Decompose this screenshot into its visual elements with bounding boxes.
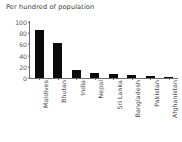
y-tick-label-4: 80 (19, 30, 27, 37)
x-tick-label-bhutan: Bhutan (60, 80, 67, 103)
x-tick-mark-0 (39, 78, 40, 80)
y-tick-label-2: 40 (19, 52, 27, 59)
x-tick-mark-2 (76, 78, 77, 80)
bar-bhutan[interactable] (53, 43, 62, 78)
plot-area: 020406080100 (30, 22, 178, 78)
x-tick-label-bangladesh: Bangladesh (134, 80, 141, 117)
x-tick-label-sri-lanka: Sri Lanka (116, 80, 123, 109)
x-axis-line (29, 78, 178, 79)
y-tick-label-0: 0 (23, 75, 27, 82)
bar-india[interactable] (72, 70, 81, 78)
x-tick-label-afghanistan: Afghanistan (171, 80, 178, 118)
y-tick-label-1: 20 (19, 63, 27, 70)
chart-title: Per hundred of population (6, 3, 94, 11)
bar-maldives[interactable] (35, 30, 44, 78)
x-tick-mark-1 (58, 78, 59, 80)
y-tick-label-5: 100 (15, 19, 27, 26)
x-tick-mark-5 (132, 78, 133, 80)
x-tick-mark-6 (150, 78, 151, 80)
y-tick-label-3: 60 (19, 41, 27, 48)
x-tick-label-pakistan: Pakistan (153, 80, 160, 107)
x-tick-label-india: India (79, 80, 86, 96)
x-tick-label-nepal: Nepal (97, 80, 104, 98)
bar-series (30, 22, 178, 78)
x-tick-mark-4 (113, 78, 114, 80)
x-tick-mark-7 (169, 78, 170, 80)
x-tick-mark-3 (95, 78, 96, 80)
x-axis-labels: MaldivesBhutanIndiaNepalSri LankaBanglad… (30, 80, 178, 140)
bar-chart: Per hundred of population 020406080100 M… (0, 0, 182, 142)
x-tick-label-maldives: Maldives (42, 80, 49, 108)
